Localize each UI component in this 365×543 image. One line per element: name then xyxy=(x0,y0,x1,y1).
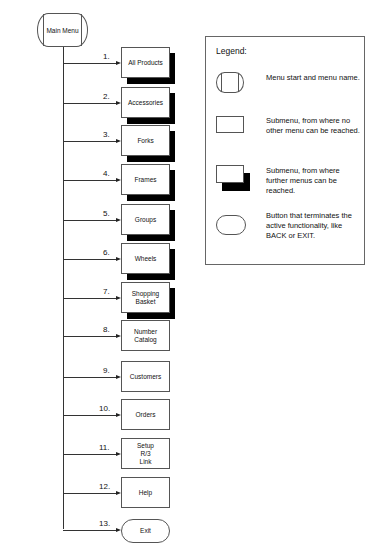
menu-item-label: Wheels xyxy=(135,255,157,263)
menu-item-number: 10. xyxy=(99,404,110,413)
legend-text-menu-start: Menu start and menu name. xyxy=(266,73,361,83)
menu-item-label: Accessories xyxy=(128,99,163,107)
legend-title: Legend: xyxy=(216,46,247,56)
connector-wheels xyxy=(63,259,117,260)
menu-item-frames[interactable]: Frames xyxy=(121,164,170,195)
menu-item-number: 2. xyxy=(103,92,110,101)
menu-start-icon xyxy=(216,72,244,93)
menu-item-shopping-basket[interactable]: Shopping Basket xyxy=(121,282,170,313)
menu-item-wheels[interactable]: Wheels xyxy=(121,243,170,274)
menu-item-number: 5. xyxy=(103,209,110,218)
menu-item-number: 4. xyxy=(103,169,110,178)
menu-item-number: 8. xyxy=(103,325,110,334)
exit-button[interactable]: Exit xyxy=(121,519,170,543)
menu-item-number: 12. xyxy=(99,482,110,491)
menu-item-number: 11. xyxy=(99,443,110,452)
menu-item-label: Number Catalog xyxy=(129,328,163,344)
menu-item-help[interactable]: Help xyxy=(121,477,170,508)
menu-item-number: 13. xyxy=(99,519,110,528)
menu-item-all-products[interactable]: All Products xyxy=(121,47,170,78)
menu-item-customers[interactable]: Customers xyxy=(121,361,170,392)
menu-item-label: All Products xyxy=(128,59,163,67)
connector-customers xyxy=(63,377,117,378)
menu-item-number: 3. xyxy=(103,130,110,139)
main-menu-node: Main Menu xyxy=(37,13,88,47)
menu-item-label: Groups xyxy=(135,216,156,224)
connector-shopping-basket xyxy=(63,298,117,299)
menu-item-label: Help xyxy=(139,489,152,497)
main-menu-label: Main Menu xyxy=(46,27,78,34)
menu-item-label: Setup R/3 Link xyxy=(135,442,157,466)
menu-item-number: 6. xyxy=(103,248,110,257)
menu-item-number-catalog[interactable]: Number Catalog xyxy=(121,320,170,351)
menu-item-number: 7. xyxy=(103,287,110,296)
menu-item-number: 9. xyxy=(103,366,110,375)
menu-item-label: Orders xyxy=(136,411,156,419)
legend-text-submenu: Submenu, from where no other menu can be… xyxy=(266,116,361,136)
connector-forks xyxy=(63,141,117,142)
connector-setup-r-3-link xyxy=(63,454,117,455)
connector-number-catalog xyxy=(63,336,117,337)
menu-item-label: Shopping Basket xyxy=(129,290,163,306)
connector-exit xyxy=(63,530,117,531)
menu-item-orders[interactable]: Orders xyxy=(121,399,170,430)
menu-item-groups[interactable]: Groups xyxy=(121,204,170,235)
terminate-button-icon xyxy=(216,215,246,235)
legend-text-submenu-further: Submenu, from where further menus can be… xyxy=(266,166,361,196)
legend-panel: Legend: Menu start and menu name. Submen… xyxy=(205,36,365,265)
menu-item-number: 1. xyxy=(103,52,110,61)
menu-item-setup-r-3-link[interactable]: Setup R/3 Link xyxy=(121,438,170,469)
connector-frames xyxy=(63,180,117,181)
connector-help xyxy=(63,493,117,494)
menu-item-label: Frames xyxy=(134,176,156,184)
connector-orders xyxy=(63,415,117,416)
connector-accessories xyxy=(63,103,117,104)
connector-groups xyxy=(63,220,117,221)
connector-all-products xyxy=(63,63,117,64)
submenu-icon xyxy=(216,116,244,133)
menu-item-forks[interactable]: Forks xyxy=(121,125,170,156)
trunk-connector xyxy=(63,47,64,529)
legend-text-terminate-button: Button that terminates the active functi… xyxy=(266,211,361,241)
menu-item-label: Customers xyxy=(130,373,161,381)
submenu-further-icon xyxy=(216,165,244,183)
menu-item-label: Forks xyxy=(137,137,153,145)
menu-item-label: Exit xyxy=(140,527,151,535)
menu-item-accessories[interactable]: Accessories xyxy=(121,87,170,118)
